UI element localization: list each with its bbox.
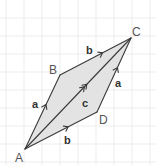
- vertex-label-b: B: [49, 63, 57, 77]
- vertex-label-d: D: [99, 113, 108, 127]
- vector-label-a: a: [32, 98, 39, 110]
- vertex-label-a: A: [15, 151, 23, 165]
- vector-label-b: b: [86, 44, 93, 56]
- vector-label-a: a: [115, 77, 122, 89]
- vector-parallelogram-diagram: ABCD abbac: [0, 0, 156, 165]
- vertex-label-c: C: [132, 25, 141, 39]
- vector-label-c: c: [82, 97, 88, 109]
- vector-label-b: b: [64, 134, 71, 146]
